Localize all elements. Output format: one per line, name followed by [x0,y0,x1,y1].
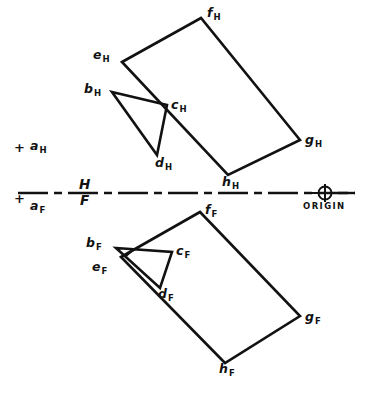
horizontal-view-group [112,18,300,175]
label-e-h: eH [93,49,109,62]
label-c-f: cF [176,245,190,258]
point-marker-a-f: + [14,192,25,205]
drawing-sheet: + + aH bH cH dH eH fH gH hH H F ORIGIN a… [0,0,369,395]
label-b-h: bH [84,83,101,96]
label-a-h: aH [30,140,46,153]
label-b-f: bF [86,237,101,250]
label-g-f: gF [305,311,320,324]
origin-label: ORIGIN [303,202,346,211]
label-h-f: hF [219,363,234,376]
geometry-canvas [0,0,369,395]
label-a-f: aF [30,200,45,213]
frontal-view-group [116,212,300,363]
label-f-f: fF [205,204,217,217]
label-e-f: eF [92,261,107,274]
plane-efgh-top-view [122,18,300,175]
plane-efgh-front-view [121,212,300,363]
point-marker-a-h: + [14,141,25,154]
reference-label-f: F [80,194,89,208]
label-f-h: fH [207,7,220,20]
reference-label-h: H [79,178,90,192]
label-h-h: hH [222,176,239,189]
label-g-h: gH [305,134,322,147]
label-c-h: cH [171,99,186,112]
label-d-f: dF [158,288,173,301]
label-d-h: dH [155,157,172,170]
reference-line-group [18,184,355,202]
